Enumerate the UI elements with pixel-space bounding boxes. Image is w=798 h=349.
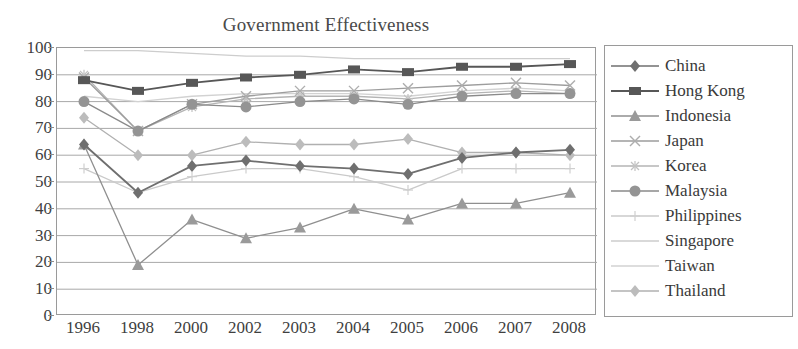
- data-point: [403, 99, 414, 110]
- y-axis: 1009080706050403020100: [0, 47, 52, 315]
- legend-label: Hong Kong: [661, 81, 745, 100]
- y-tick-label: 10: [6, 280, 52, 297]
- y-tick-label: 90: [6, 66, 52, 83]
- legend-key-none-icon: [609, 230, 661, 252]
- legend-key-x-icon: [609, 130, 661, 152]
- data-point: [187, 160, 197, 172]
- x-tick-label: 2006: [434, 318, 488, 337]
- legend-label: China: [661, 56, 706, 75]
- y-tick-mark: [48, 235, 54, 236]
- y-tick-label: 40: [6, 200, 52, 217]
- y-tick-mark: [48, 154, 54, 155]
- y-tick-label: 50: [6, 173, 52, 190]
- data-point: [294, 71, 306, 79]
- data-point: [294, 222, 306, 233]
- data-point: [565, 88, 576, 99]
- x-tick-label: 2008: [542, 318, 596, 337]
- data-point: [403, 185, 413, 195]
- legend-key-diamond-icon: [609, 280, 661, 302]
- y-tick-mark: [48, 315, 54, 316]
- legend-item-korea[interactable]: Korea: [609, 153, 791, 178]
- legend-label: Malaysia: [661, 181, 727, 200]
- legend-key-plus-icon: [609, 205, 661, 227]
- data-point: [186, 214, 198, 225]
- data-point: [565, 164, 575, 174]
- x-tick-label: 1998: [110, 318, 164, 337]
- data-point: [402, 68, 414, 76]
- data-point: [348, 65, 360, 73]
- data-point: [78, 76, 90, 84]
- y-tick-label: 70: [6, 119, 52, 136]
- data-point: [349, 138, 359, 150]
- legend-key-none-icon: [609, 255, 661, 277]
- legend-item-indonesia[interactable]: Indonesia: [609, 103, 791, 128]
- data-point: [79, 96, 90, 107]
- legend-label: Taiwan: [661, 256, 715, 275]
- y-tick-mark: [48, 288, 54, 289]
- legend-item-taiwan[interactable]: Taiwan: [609, 253, 791, 278]
- data-point: [295, 96, 306, 107]
- x-tick-label: 2007: [488, 318, 542, 337]
- legend-item-thailand[interactable]: Thailand: [609, 278, 791, 303]
- data-point: [186, 79, 198, 87]
- legend-key-square-icon: [609, 80, 661, 102]
- legend-item-philippines[interactable]: Philippines: [609, 203, 791, 228]
- data-point: [187, 149, 197, 161]
- y-tick-label: 80: [6, 93, 52, 110]
- data-point: [187, 99, 198, 110]
- series-line: [84, 64, 570, 91]
- data-point: [403, 168, 413, 180]
- legend-key-star-icon: [609, 155, 661, 177]
- y-tick-label: 0: [6, 307, 52, 324]
- x-tick-label: 2004: [326, 318, 380, 337]
- data-point: [457, 91, 468, 102]
- legend-label: Singapore: [661, 231, 734, 250]
- y-tick-label: 20: [6, 253, 52, 270]
- legend-item-singapore[interactable]: Singapore: [609, 228, 791, 253]
- data-point: [241, 155, 251, 167]
- x-tick-label: 2002: [218, 318, 272, 337]
- series-korea: [79, 70, 575, 136]
- legend-item-china[interactable]: China: [609, 53, 791, 78]
- legend-label: Korea: [661, 156, 707, 175]
- series-line: [84, 144, 570, 265]
- legend-label: Philippines: [661, 206, 742, 225]
- legend-key-diamond-icon: [609, 55, 661, 77]
- data-point: [295, 138, 305, 150]
- legend-label: Indonesia: [661, 106, 731, 125]
- chart-container: Government Effectiveness 100908070605040…: [0, 0, 798, 349]
- legend-label: Japan: [661, 131, 704, 150]
- legend-item-malaysia[interactable]: Malaysia: [609, 178, 791, 203]
- plot-svg: [57, 48, 597, 316]
- data-point: [511, 88, 522, 99]
- series-hong-kong: [78, 60, 576, 95]
- legend-key-triangle-icon: [609, 105, 661, 127]
- series-singapore: [84, 51, 570, 59]
- y-tick-mark: [48, 101, 54, 102]
- y-tick-mark: [48, 208, 54, 209]
- data-point: [456, 63, 468, 71]
- legend-item-japan[interactable]: Japan: [609, 128, 791, 153]
- data-point: [295, 160, 305, 172]
- data-point: [187, 172, 197, 182]
- data-point: [133, 126, 144, 137]
- y-tick-label: 30: [6, 227, 52, 244]
- data-point: [457, 164, 467, 174]
- x-tick-label: 2003: [272, 318, 326, 337]
- chart-legend: ChinaHong KongIndonesiaJapanKoreaMalaysi…: [604, 45, 793, 317]
- data-point: [241, 101, 252, 112]
- data-point: [240, 73, 252, 81]
- x-tick-label: 2005: [380, 318, 434, 337]
- series-philippines: [79, 164, 575, 198]
- data-point: [79, 112, 89, 124]
- series-line: [84, 169, 570, 193]
- data-point: [133, 149, 143, 161]
- x-axis: 1996199820002002200320042005200620072008: [56, 318, 596, 344]
- y-tick-mark: [48, 127, 54, 128]
- plot-area: [56, 47, 596, 315]
- data-point: [79, 164, 89, 174]
- data-point: [564, 187, 576, 198]
- legend-item-hong-kong[interactable]: Hong Kong: [609, 78, 791, 103]
- series-malaysia: [79, 88, 576, 137]
- data-point: [511, 147, 521, 159]
